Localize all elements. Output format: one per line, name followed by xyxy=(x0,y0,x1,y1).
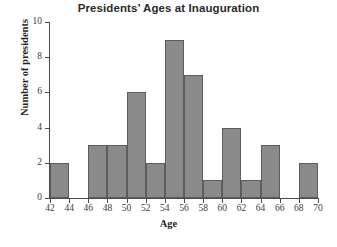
y-axis-title: Number of presidents xyxy=(19,3,30,133)
histogram-bar xyxy=(299,163,318,198)
histogram-bar xyxy=(222,128,241,198)
y-tick-mark xyxy=(45,163,49,164)
y-tick-mark xyxy=(45,92,49,93)
histogram-bar xyxy=(261,145,280,198)
y-tick-mark xyxy=(45,57,49,58)
histogram-bar xyxy=(184,75,203,198)
plot-area xyxy=(50,22,318,198)
histogram-bar xyxy=(146,163,165,198)
y-tick-label: 0 xyxy=(20,193,42,203)
histogram-bar xyxy=(165,40,184,198)
y-tick-mark xyxy=(45,198,49,199)
histogram-bar xyxy=(127,92,146,198)
x-tick-label: 70 xyxy=(306,204,330,214)
histogram-chart: Presidents’ Ages at Inauguration 0246810… xyxy=(0,0,337,247)
histogram-bar xyxy=(50,163,69,198)
histogram-bar xyxy=(203,180,222,198)
y-tick-mark xyxy=(45,22,49,23)
histogram-bar xyxy=(241,180,260,198)
chart-title: Presidents’ Ages at Inauguration xyxy=(0,2,337,14)
y-tick-mark xyxy=(45,128,49,129)
histogram-bar xyxy=(88,145,107,198)
histogram-bar xyxy=(107,145,126,198)
y-tick-label: 2 xyxy=(20,158,42,168)
x-axis-title: Age xyxy=(0,218,337,229)
